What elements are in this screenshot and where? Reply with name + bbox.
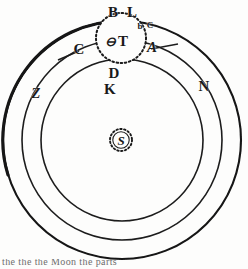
label-K: K [104, 82, 116, 97]
label-B: B [108, 5, 118, 20]
label-Z: Z [31, 86, 40, 101]
label-S: S [117, 134, 124, 147]
label-G: C [147, 21, 154, 30]
caption-text: the the the Moon the parts [2, 259, 117, 267]
caption-strip: the the the Moon the parts [0, 259, 248, 269]
label-earth-symbol: ⊖ [105, 35, 116, 48]
label-D: D [108, 66, 119, 81]
label-L: L [127, 5, 137, 20]
astronomical-diagram: B L b C ⊖ T S C A D K Z N the the the Mo… [0, 0, 248, 269]
label-C: C [73, 42, 84, 57]
label-A: A [147, 40, 157, 55]
label-T: T [118, 34, 128, 49]
label-N: N [198, 79, 209, 94]
label-b: b [137, 22, 142, 31]
